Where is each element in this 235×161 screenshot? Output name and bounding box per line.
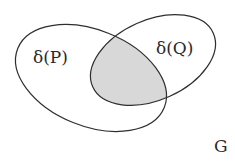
venn-svg: δ(P) δ(Q) G (0, 0, 235, 161)
set-q-label: δ(Q) (156, 38, 193, 58)
set-p-label: δ(P) (33, 47, 68, 67)
venn-diagram: δ(P) δ(Q) G (0, 0, 235, 161)
universe-label: G (214, 136, 228, 156)
intersection-shading (0, 4, 182, 152)
